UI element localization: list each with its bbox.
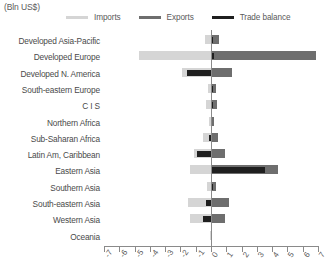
bar-trade-balance bbox=[211, 167, 265, 173]
x-axis-tick-label: 0 bbox=[210, 250, 220, 259]
legend-item-imports: Imports bbox=[66, 13, 121, 22]
x-axis-tick-label: -3 bbox=[164, 248, 175, 259]
category-label: Northern Africa bbox=[47, 116, 100, 130]
legend-item-exports: Exports bbox=[139, 13, 194, 22]
x-axis-tick-label: -7 bbox=[103, 248, 114, 259]
bar-trade-balance bbox=[197, 151, 211, 157]
category-label: Eastern Asia bbox=[55, 164, 100, 178]
category-label: Developed Asia-Pacific bbox=[18, 34, 100, 48]
bar-trade-balance bbox=[187, 70, 211, 76]
bar-exports bbox=[211, 133, 218, 142]
legend-label-exports: Exports bbox=[167, 13, 194, 22]
bar-exports bbox=[211, 149, 225, 158]
x-axis-tick-label: 4 bbox=[271, 250, 281, 259]
category-label: South-eastern Asia bbox=[33, 197, 100, 211]
zero-baseline bbox=[211, 30, 212, 252]
category-label: Western Asia bbox=[53, 213, 100, 227]
category-axis-labels: Developed Asia-PacificDeveloped EuropeDe… bbox=[0, 34, 100, 246]
x-axis-tick-label: 2 bbox=[241, 250, 251, 259]
x-axis-tick-label: -4 bbox=[149, 248, 160, 259]
bar-imports bbox=[139, 51, 211, 60]
plot-area bbox=[104, 34, 318, 246]
category-label: Southern Asia bbox=[50, 181, 100, 195]
x-axis-tick-label: -1 bbox=[195, 248, 206, 259]
bar-exports bbox=[211, 198, 229, 207]
category-label: South-eastern Europe bbox=[22, 83, 100, 97]
bar-exports bbox=[211, 51, 316, 60]
x-axis-tick-label: 1 bbox=[225, 250, 235, 259]
category-label: Latin Am, Caribbean bbox=[28, 148, 100, 162]
x-axis-tick-label: -5 bbox=[134, 248, 145, 259]
bar-exports bbox=[211, 68, 232, 77]
legend-label-trade-balance: Trade balance bbox=[240, 13, 291, 22]
legend-label-imports: Imports bbox=[94, 13, 121, 22]
legend-swatch-exports bbox=[139, 16, 161, 19]
category-label: C I S bbox=[82, 99, 100, 113]
x-axis-tick-label: -2 bbox=[179, 248, 190, 259]
x-axis-tick-label: 7 bbox=[317, 250, 327, 259]
category-label: Sub-Saharan Africa bbox=[31, 132, 100, 146]
category-label: Oceania bbox=[70, 230, 100, 244]
legend-item-trade-balance: Trade balance bbox=[212, 13, 291, 22]
chart-legend: ImportsExportsTrade balance bbox=[66, 13, 308, 22]
bar-trade-balance bbox=[203, 216, 211, 222]
units-label: (Bln US$) bbox=[4, 2, 40, 12]
x-axis-tick-label: 5 bbox=[286, 250, 296, 259]
legend-swatch-imports bbox=[66, 16, 88, 19]
legend-swatch-trade-balance bbox=[212, 16, 234, 19]
bar-imports bbox=[190, 165, 211, 174]
x-axis-tick-label: 3 bbox=[256, 250, 266, 259]
x-axis-tick-label: 6 bbox=[302, 250, 312, 259]
x-axis-tick-label: -6 bbox=[118, 248, 129, 259]
category-label: Developed Europe bbox=[34, 50, 100, 64]
bar-exports bbox=[211, 214, 225, 223]
category-label: Developed N. America bbox=[20, 67, 100, 81]
